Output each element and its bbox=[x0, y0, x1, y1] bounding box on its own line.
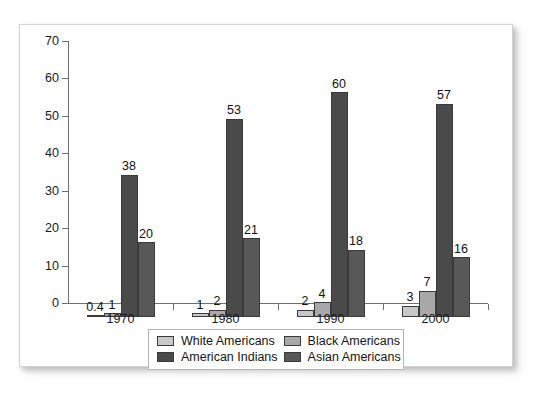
legend-swatch-white-americans bbox=[157, 336, 174, 346]
bar-value-label: 60 bbox=[332, 78, 346, 91]
y-tick-mark bbox=[62, 303, 68, 304]
bar-1970-american-indians[interactable]: 38 bbox=[121, 175, 138, 317]
y-tick-mark bbox=[62, 78, 68, 79]
x-tick-mark bbox=[488, 304, 489, 310]
legend-entry-american-indians: American Indians bbox=[157, 351, 278, 364]
legend-label-american-indians: American Indians bbox=[181, 351, 278, 364]
bar-1990-white-americans[interactable]: 2 bbox=[297, 310, 314, 317]
x-axis-label-1970: 1970 bbox=[107, 313, 135, 326]
x-tick-mark bbox=[278, 304, 279, 310]
x-tick-mark bbox=[383, 304, 384, 310]
bar-value-label: 4 bbox=[319, 288, 326, 301]
legend-swatch-black-americans bbox=[284, 336, 301, 346]
bar-group-1980: 125321 bbox=[192, 55, 260, 317]
x-axis-label-1990: 1990 bbox=[317, 313, 345, 326]
bar-value-label: 53 bbox=[227, 104, 241, 117]
bar-value-label: 57 bbox=[437, 89, 451, 102]
y-tick-label: 40 bbox=[45, 147, 59, 160]
legend-swatch-asian-americans bbox=[284, 352, 301, 362]
bar-1980-white-americans[interactable]: 1 bbox=[192, 313, 209, 317]
bar-group-2000: 375716 bbox=[402, 55, 470, 317]
y-tick-label: 0 bbox=[52, 297, 59, 310]
bar-value-label: 20 bbox=[139, 228, 153, 241]
bar-2000-white-americans[interactable]: 3 bbox=[402, 306, 419, 317]
bar-value-label: 38 bbox=[122, 160, 136, 173]
y-tick-mark bbox=[62, 191, 68, 192]
bar-group-1970: 0.413820 bbox=[87, 55, 155, 317]
bar-value-label: 2 bbox=[214, 295, 221, 308]
legend-label-white-americans: White Americans bbox=[181, 335, 275, 348]
bar-1990-asian-americans[interactable]: 18 bbox=[348, 250, 365, 317]
bar-value-label: 18 bbox=[349, 235, 363, 248]
bar-2000-american-indians[interactable]: 57 bbox=[436, 104, 453, 317]
y-tick-label: 30 bbox=[45, 184, 59, 197]
plot-area: 010203040506070 0.4138201253212460183757… bbox=[68, 41, 492, 317]
bar-value-label: 16 bbox=[454, 243, 468, 256]
y-tick-mark bbox=[62, 153, 68, 154]
bar-value-label: 1 bbox=[197, 299, 204, 312]
x-tick-mark bbox=[173, 304, 174, 310]
legend-swatch-american-indians bbox=[157, 352, 174, 362]
y-tick-label: 50 bbox=[45, 110, 59, 123]
x-axis-label-2000: 2000 bbox=[422, 313, 450, 326]
chart-legend: White Americans Black Americans American… bbox=[148, 329, 404, 370]
chart-page: 010203040506070 0.4138201253212460183757… bbox=[0, 0, 540, 396]
y-axis-line bbox=[68, 41, 69, 303]
bar-1970-asian-americans[interactable]: 20 bbox=[138, 242, 155, 317]
bar-value-label: 21 bbox=[244, 224, 258, 237]
y-tick-label: 20 bbox=[45, 222, 59, 235]
bar-group-1990: 246018 bbox=[297, 55, 365, 317]
bar-value-label: 1 bbox=[109, 299, 116, 312]
bar-value-label: 0.4 bbox=[86, 301, 103, 314]
y-tick-mark bbox=[62, 266, 68, 267]
legend-entry-black-americans: Black Americans bbox=[284, 335, 401, 348]
y-tick-label: 10 bbox=[45, 259, 59, 272]
x-axis-label-1980: 1980 bbox=[212, 313, 240, 326]
bar-2000-asian-americans[interactable]: 16 bbox=[453, 257, 470, 317]
bar-1990-american-indians[interactable]: 60 bbox=[331, 92, 348, 317]
y-tick-mark bbox=[62, 41, 68, 42]
legend-label-asian-americans: Asian Americans bbox=[308, 351, 401, 364]
bar-1980-american-indians[interactable]: 53 bbox=[226, 119, 243, 317]
y-tick-mark bbox=[62, 228, 68, 229]
legend-label-black-americans: Black Americans bbox=[308, 335, 400, 348]
legend-entry-white-americans: White Americans bbox=[157, 335, 278, 348]
chart-card: 010203040506070 0.4138201253212460183757… bbox=[19, 24, 513, 367]
bar-value-label: 7 bbox=[424, 276, 431, 289]
y-tick-label: 70 bbox=[45, 35, 59, 48]
y-tick-mark bbox=[62, 116, 68, 117]
y-tick-label: 60 bbox=[45, 72, 59, 85]
bar-1980-asian-americans[interactable]: 21 bbox=[243, 238, 260, 317]
legend-entry-asian-americans: Asian Americans bbox=[284, 351, 401, 364]
bar-value-label: 2 bbox=[302, 295, 309, 308]
bar-value-label: 3 bbox=[407, 291, 414, 304]
bar-1970-white-americans[interactable]: 0.4 bbox=[87, 315, 104, 317]
